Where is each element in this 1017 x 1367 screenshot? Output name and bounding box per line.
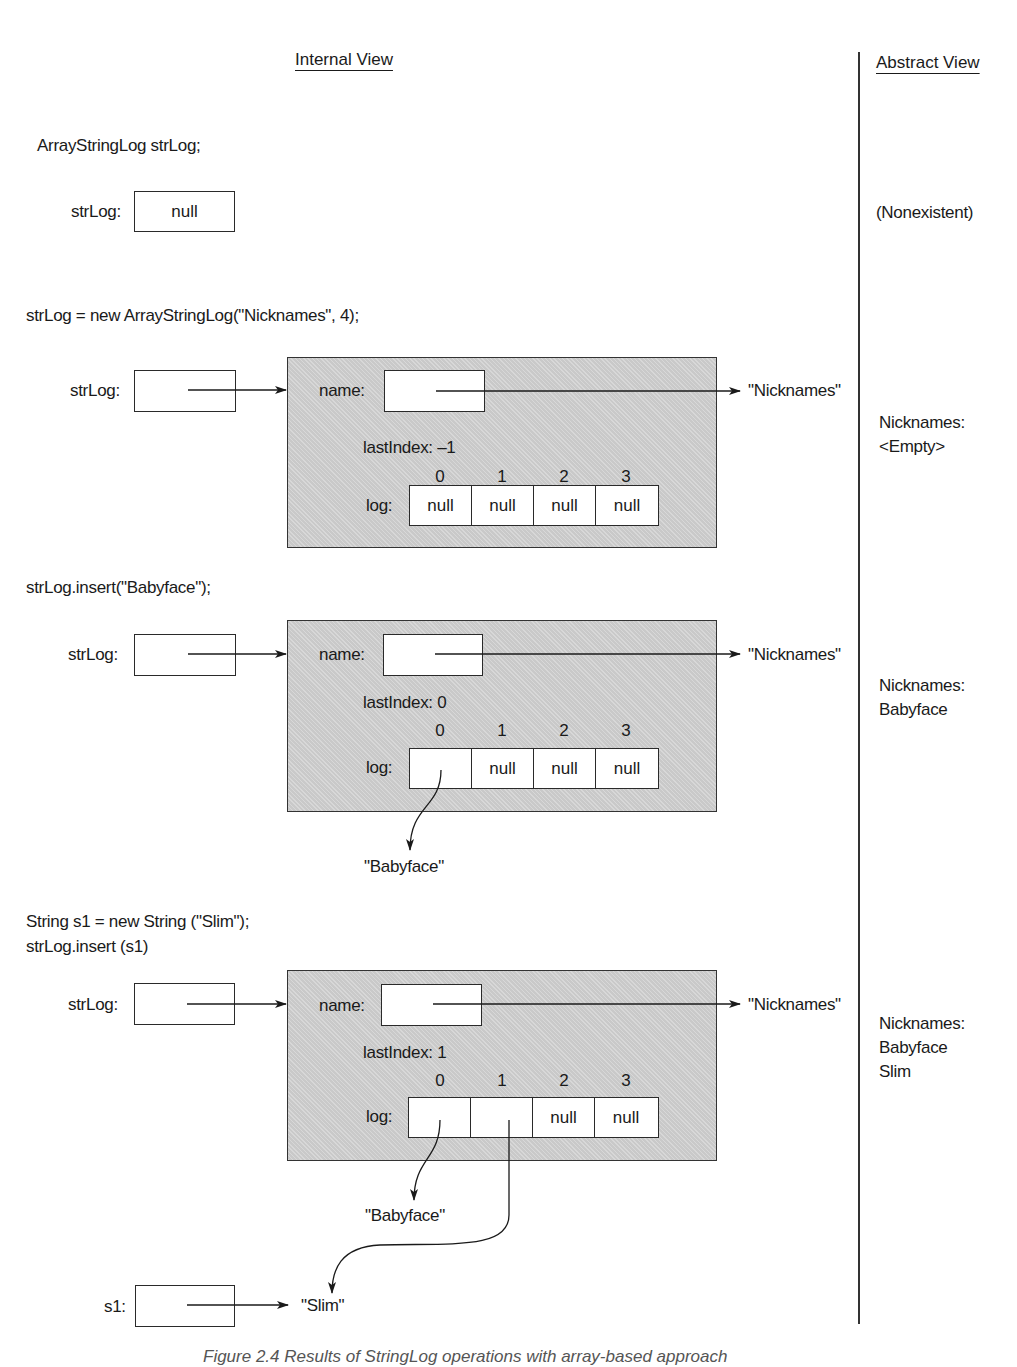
strlog-reference-box bbox=[134, 370, 236, 412]
name-reference-box bbox=[383, 634, 483, 676]
log-field-label: log: bbox=[366, 758, 392, 778]
name-field-label: name: bbox=[319, 645, 365, 665]
last-index-label: lastIndex: 1 bbox=[363, 1043, 446, 1063]
strlog-reference-box: null bbox=[134, 191, 235, 232]
abstract-state-item: Slim bbox=[879, 1062, 911, 1082]
log-array: null null null bbox=[409, 748, 659, 789]
code-line: strLog = new ArrayStringLog("Nicknames",… bbox=[26, 306, 359, 326]
strlog-reference-box bbox=[134, 983, 235, 1025]
array-cell: null bbox=[410, 486, 472, 525]
last-index-label: lastIndex: –1 bbox=[363, 438, 456, 458]
strlog-reference-box bbox=[134, 634, 236, 676]
array-cell bbox=[410, 749, 472, 788]
code-line: ArrayStringLog strLog; bbox=[37, 136, 200, 156]
abstract-state: (Nonexistent) bbox=[876, 203, 973, 223]
array-cell: null bbox=[472, 749, 534, 788]
strlog-label: strLog: bbox=[68, 995, 118, 1015]
abstract-state-item: Babyface bbox=[879, 700, 947, 720]
abstract-state-title: Nicknames: bbox=[879, 413, 965, 433]
array-cell: null bbox=[596, 749, 658, 788]
slim-string: "Slim" bbox=[301, 1296, 344, 1316]
nicknames-string: "Nicknames" bbox=[748, 995, 841, 1015]
abstract-view-header: Abstract View bbox=[876, 53, 980, 73]
figure-caption: Figure 2.4 Results of StringLog operatio… bbox=[203, 1347, 727, 1367]
index: 1 bbox=[471, 1071, 533, 1091]
nicknames-string: "Nicknames" bbox=[748, 381, 841, 401]
index: 2 bbox=[533, 467, 595, 487]
log-array: null null bbox=[408, 1097, 659, 1138]
index: 0 bbox=[409, 467, 471, 487]
index: 3 bbox=[595, 721, 657, 741]
array-cell: null bbox=[595, 1098, 657, 1137]
array-indices: 0 1 2 3 bbox=[409, 1071, 657, 1091]
null-value: null bbox=[171, 202, 197, 222]
array-cell: null bbox=[534, 486, 596, 525]
index: 3 bbox=[595, 1071, 657, 1091]
name-reference-box bbox=[384, 370, 485, 412]
array-cell: null bbox=[533, 1098, 595, 1137]
code-line: String s1 = new String ("Slim"); bbox=[26, 912, 249, 932]
name-field-label: name: bbox=[319, 996, 365, 1016]
array-indices: 0 1 2 3 bbox=[409, 467, 657, 487]
strlog-label: strLog: bbox=[70, 381, 120, 401]
log-array: null null null null bbox=[409, 485, 659, 526]
log-field-label: log: bbox=[366, 1107, 392, 1127]
array-cell bbox=[471, 1098, 533, 1137]
array-cell: null bbox=[596, 486, 658, 525]
index: 0 bbox=[409, 721, 471, 741]
internal-view-header: Internal View bbox=[295, 50, 393, 70]
array-indices: 0 1 2 3 bbox=[409, 721, 657, 741]
log-field-label: log: bbox=[366, 496, 392, 516]
strlog-label: strLog: bbox=[68, 645, 118, 665]
index: 2 bbox=[533, 1071, 595, 1091]
array-cell: null bbox=[534, 749, 596, 788]
s1-label: s1: bbox=[104, 1297, 126, 1317]
index: 2 bbox=[533, 721, 595, 741]
code-line: strLog.insert (s1) bbox=[26, 937, 148, 957]
array-cell: null bbox=[472, 486, 534, 525]
last-index-label: lastIndex: 0 bbox=[363, 693, 446, 713]
index: 0 bbox=[409, 1071, 471, 1091]
strlog-label: strLog: bbox=[71, 202, 121, 222]
nicknames-string: "Nicknames" bbox=[748, 645, 841, 665]
abstract-state-item: <Empty> bbox=[879, 437, 945, 457]
s1-reference-box bbox=[135, 1285, 235, 1327]
array-cell bbox=[409, 1098, 471, 1137]
index: 1 bbox=[471, 467, 533, 487]
abstract-state-title: Nicknames: bbox=[879, 676, 965, 696]
index: 3 bbox=[595, 467, 657, 487]
babyface-string: "Babyface" bbox=[365, 1206, 445, 1226]
babyface-string: "Babyface" bbox=[364, 857, 444, 877]
name-reference-box bbox=[381, 984, 482, 1026]
name-field-label: name: bbox=[319, 381, 365, 401]
view-divider bbox=[858, 52, 860, 1324]
abstract-state-item: Babyface bbox=[879, 1038, 947, 1058]
index: 1 bbox=[471, 721, 533, 741]
abstract-state-title: Nicknames: bbox=[879, 1014, 965, 1034]
code-line: strLog.insert("Babyface"); bbox=[26, 578, 211, 598]
